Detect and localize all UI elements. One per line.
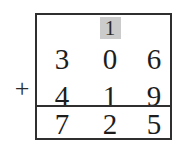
carry-ones-cell [138, 15, 170, 41]
total-hundreds-digit: 7 [41, 107, 83, 141]
carry-tens-cell: 1 [89, 15, 131, 41]
addend1-hundreds-digit: 3 [41, 42, 83, 76]
carry-tens-value: 1 [100, 17, 121, 39]
addend1-tens-digit: 0 [89, 42, 131, 76]
first-addend-row: 3 0 6 [37, 42, 170, 76]
addend1-ones-digit: 6 [138, 42, 170, 76]
total-ones-digit: 5 [138, 107, 170, 141]
addition-worksheet: + 1 3 0 6 4 1 9 7 2 5 [0, 0, 182, 153]
carry-row: 1 [37, 15, 170, 41]
total-row: 7 2 5 [37, 107, 170, 141]
addition-operator-sign: + [10, 74, 34, 104]
column-addition-box: 1 3 0 6 4 1 9 7 2 5 [35, 13, 172, 140]
total-tens-digit: 2 [89, 107, 131, 141]
carry-hundreds-cell [41, 15, 83, 41]
